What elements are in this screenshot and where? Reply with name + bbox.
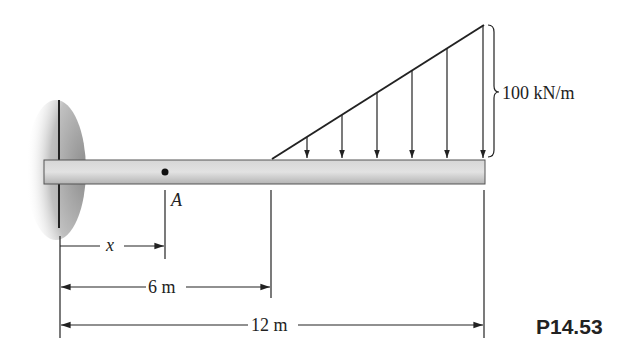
load-brace (488, 25, 499, 157)
dimension-6m: 6 m (61, 277, 270, 297)
svg-text:6 m: 6 m (148, 277, 176, 297)
svg-text:12 m: 12 m (251, 315, 288, 335)
svg-text:x: x (105, 235, 114, 255)
dimension-12m: 12 m (61, 315, 483, 335)
beam (44, 160, 485, 184)
problem-number: P14.53 (536, 315, 603, 338)
point-a-marker (162, 169, 169, 176)
point-a-label: A (170, 190, 183, 210)
beam-diagram: 100 kN/m A x 6 m 12 m P14.53 (0, 0, 630, 355)
dimension-x: x (60, 235, 164, 255)
load-intensity-label: 100 kN/m (502, 83, 575, 103)
triangular-distributed-load (272, 25, 484, 159)
